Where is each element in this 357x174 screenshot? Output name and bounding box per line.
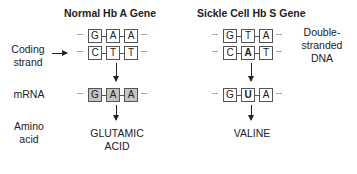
strand-dashes: -- [212,46,218,56]
strand-dashes: -- [77,88,83,98]
strand-dashes: -- [141,88,147,98]
nucleotide-box: G [223,29,237,43]
amino-label-line2: acid [9,133,49,146]
coding-strand-label: Coding strand [5,43,51,69]
dna-label-line1: Double- [296,26,348,39]
dna-label-line3: DNA [296,52,348,65]
strand-dashes: -- [276,46,282,56]
strand-dashes: -- [141,29,147,39]
sickle-gene-title: Sickle Cell Hb S Gene [197,7,306,19]
coding-strand-arrow [52,53,67,54]
coding-label-line1: Coding [5,43,51,56]
amino-acid-label: Amino acid [9,120,49,146]
sickle-amino-acid: VALINE [222,127,282,140]
nucleotide-box: A [259,88,273,102]
mutated-nucleotide-box: U [241,88,255,102]
strand-dashes: -- [212,88,218,98]
nucleotide-box: A [259,29,273,43]
nucleotide-box: A [106,29,120,43]
amino-acid-line2: ACID [86,140,148,153]
nucleotide-box: T [259,46,273,60]
normal-amino-acid: GLUTAMIC ACID [86,127,148,153]
nucleotide-box: G [88,88,102,102]
nucleotide-box: G [223,88,237,102]
nucleotide-box: A [124,88,138,102]
nucleotide-box: A [106,88,120,102]
nucleotide-box: A [124,29,138,43]
mutated-nucleotide-box: A [241,46,255,60]
amino-acid-line1: GLUTAMIC [86,127,148,140]
strand-dashes: -- [77,29,83,39]
nucleotide-box: C [223,46,237,60]
strand-dashes: -- [141,46,147,56]
transcription-arrow [116,63,117,81]
normal-gene-title: Normal Hb A Gene [64,7,156,19]
dna-label-line2: stranded [296,39,348,52]
nucleotide-box: T [106,46,120,60]
double-stranded-dna-label: Double- stranded DNA [296,26,348,65]
translation-arrow [251,105,252,120]
mrna-label: mRNA [9,88,49,101]
translation-arrow [116,105,117,120]
strand-dashes: -- [276,29,282,39]
coding-label-line2: strand [5,56,51,69]
amino-label-line1: Amino [9,120,49,133]
strand-dashes: -- [77,46,83,56]
transcription-arrow [251,63,252,81]
nucleotide-box: C [88,46,102,60]
nucleotide-box: T [124,46,138,60]
nucleotide-box: T [241,29,255,43]
nucleotide-box: G [88,29,102,43]
strand-dashes: -- [276,88,282,98]
strand-dashes: -- [212,29,218,39]
